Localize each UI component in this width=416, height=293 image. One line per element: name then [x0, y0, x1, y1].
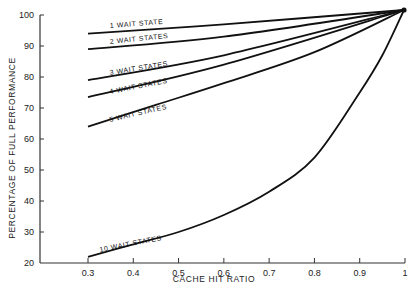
series-label: 10 WAIT STATES [99, 234, 163, 253]
y-tick-label: 40 [24, 196, 34, 206]
series-labels: 1 WAIT STATE2 WAIT STATES3 WAIT STATES4 … [99, 18, 169, 253]
x-axis-title: CACHE HIT RATIO [173, 274, 255, 284]
x-tick-label: 0.7 [263, 268, 276, 278]
y-tick-label: 80 [24, 72, 34, 82]
x-tick-label: 1 [402, 268, 407, 278]
series-line [88, 10, 404, 257]
axes [40, 15, 405, 263]
y-tick-label: 100 [19, 10, 34, 20]
x-tick-label: 0.9 [353, 268, 366, 278]
series-label: 4 WAIT STATES [109, 77, 168, 95]
series-layer [88, 10, 404, 257]
y-axis-title: PERCENTAGE OF FULL PERFORMANCE [7, 57, 17, 238]
convergence-point [401, 7, 406, 12]
y-tick-label: 70 [24, 103, 34, 113]
x-tick-label: 0.3 [82, 268, 95, 278]
performance-chart: 2030405060708090100 0.30.40.50.60.70.80.… [0, 0, 416, 293]
y-tick-label: 60 [24, 134, 34, 144]
series-label: 1 WAIT STATE [110, 18, 164, 29]
y-tick-label: 20 [24, 258, 34, 268]
series-label: 3 WAIT STATES [109, 60, 168, 76]
x-tick-label: 0.4 [127, 268, 140, 278]
x-tick-label: 0.8 [308, 268, 321, 278]
series-label: 5 WAIT STATES [109, 103, 168, 123]
y-tick-label: 30 [24, 227, 34, 237]
y-tick-label: 90 [24, 41, 34, 51]
y-tick-label: 50 [24, 165, 34, 175]
